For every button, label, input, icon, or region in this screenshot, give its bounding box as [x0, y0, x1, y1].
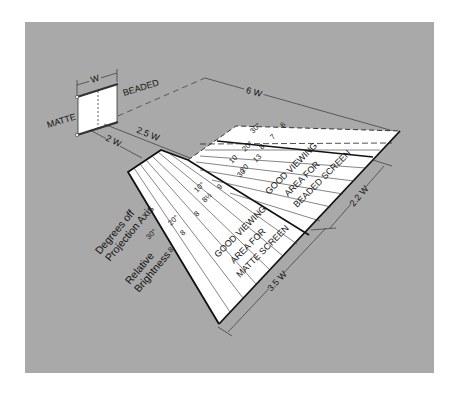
dimension-6w [205, 78, 397, 132]
svg-text:30°: 30° [144, 227, 158, 241]
matte-label: MATTE [46, 112, 77, 130]
beaded-label: BEADED [122, 77, 161, 98]
dimension-6w-label: 6 W [245, 85, 264, 99]
viewing-area-diagram: W MATTE BEADED 6 W 2.5 W 2 W [0, 0, 453, 399]
projection-axis-line [118, 78, 205, 116]
dimension-2-2w-label: 2.2 W [348, 183, 371, 208]
brightness-axis-label: Relative Brightness [122, 249, 172, 295]
dimension-2-5w-label: 2.5 W [135, 125, 161, 143]
dimension-3-5w-label: 3.5 W [265, 269, 289, 293]
